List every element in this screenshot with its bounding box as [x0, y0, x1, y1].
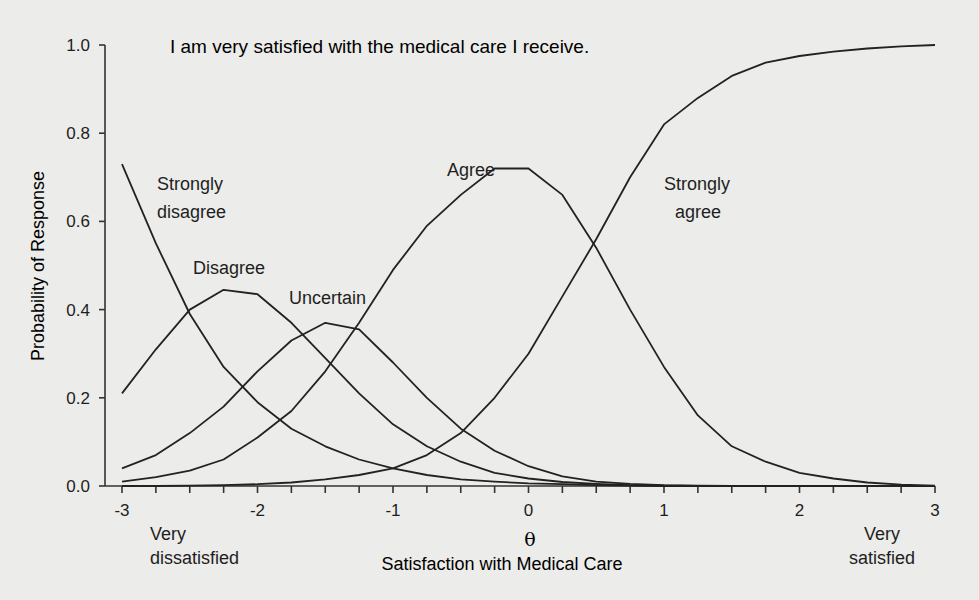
- y-tick-label: 0.0: [66, 477, 90, 496]
- x-tick-label: -2: [250, 501, 265, 520]
- curve-label: Disagree: [193, 258, 265, 278]
- x-axis-label: Satisfaction with Medical Care: [381, 554, 622, 574]
- curve-strongly-disagree: [122, 164, 935, 486]
- y-axis-label: Probability of Response: [28, 171, 48, 361]
- curve-label: Stronglyagree: [664, 174, 730, 222]
- curve-label: Uncertain: [289, 288, 366, 308]
- curve-uncertain: [122, 323, 935, 486]
- x-axis-symbol: θ: [524, 528, 535, 550]
- curve-agree: [122, 169, 935, 486]
- x-tick-label: -3: [114, 501, 129, 520]
- curve-label: Agree: [447, 160, 495, 180]
- labels: 0.00.20.40.60.81.0-3-2-10123Stronglydisa…: [66, 36, 939, 568]
- x-tick-label: 2: [795, 501, 804, 520]
- y-tick-label: 0.6: [66, 212, 90, 231]
- x-tick-label: 0: [524, 501, 533, 520]
- annotation-very-satisfied: Verysatisfied: [849, 524, 915, 568]
- x-tick-label: 1: [659, 501, 668, 520]
- y-tick-label: 0.8: [66, 124, 90, 143]
- x-tick-label: -1: [385, 501, 400, 520]
- curve-label: Stronglydisagree: [157, 174, 226, 222]
- annotation-very-dissatisfied: Verydissatisfied: [150, 524, 239, 568]
- item-response-chart: 0.00.20.40.60.81.0-3-2-10123Stronglydisa…: [0, 0, 979, 600]
- y-tick-label: 0.4: [66, 301, 90, 320]
- chart-title: I am very satisfied with the medical car…: [170, 36, 589, 57]
- y-tick-label: 1.0: [66, 36, 90, 55]
- y-tick-label: 0.2: [66, 389, 90, 408]
- x-tick-label: 3: [930, 501, 939, 520]
